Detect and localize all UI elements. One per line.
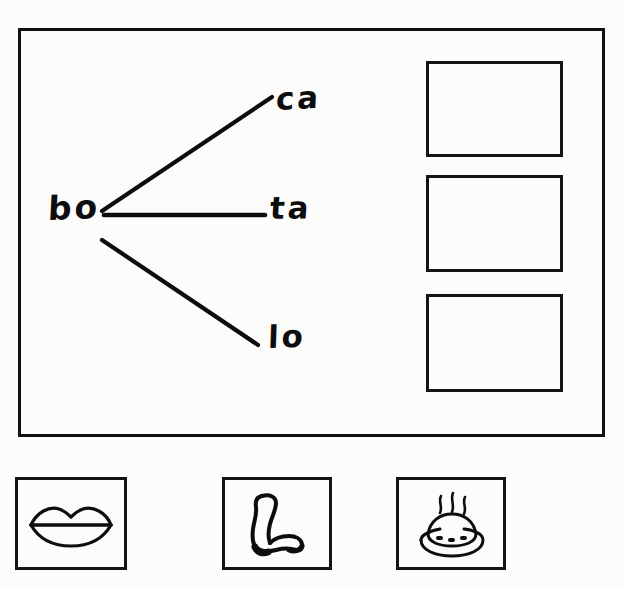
- picture-card-mouth[interactable]: [15, 477, 127, 570]
- answer-box-3[interactable]: [426, 294, 563, 392]
- answer-box-1[interactable]: [426, 61, 563, 157]
- answer-box-2[interactable]: [426, 175, 563, 272]
- boot-icon: [244, 488, 310, 560]
- root-syllable-bo: bo: [47, 190, 101, 225]
- branch-label-ca: ca: [275, 82, 322, 115]
- picture-card-cake[interactable]: [396, 477, 506, 570]
- branch-label-lo: lo: [267, 321, 306, 353]
- lips-mouth-icon: [27, 496, 115, 552]
- cake-icon: [412, 490, 490, 558]
- branch-label-ta: ta: [269, 192, 313, 224]
- worksheet-page: bo ca ta lo: [0, 0, 624, 589]
- picture-card-boot[interactable]: [222, 477, 332, 570]
